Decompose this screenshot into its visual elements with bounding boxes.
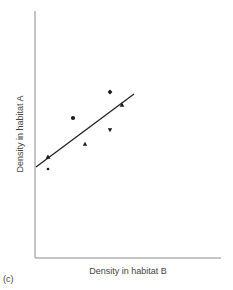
panel-label: (c) bbox=[3, 274, 14, 284]
regression-line bbox=[36, 94, 134, 167]
y-axis-label: Density in habitat A bbox=[15, 95, 25, 172]
point-triangle-down bbox=[108, 128, 112, 132]
scatter-chart: Density in habitat A Density in habitat … bbox=[0, 0, 233, 290]
x-axis-label: Density in habitat B bbox=[89, 266, 167, 276]
point-dot bbox=[47, 168, 50, 171]
point-circle bbox=[71, 116, 75, 120]
point-diamond bbox=[108, 90, 113, 95]
point-triangle-up bbox=[83, 142, 87, 146]
